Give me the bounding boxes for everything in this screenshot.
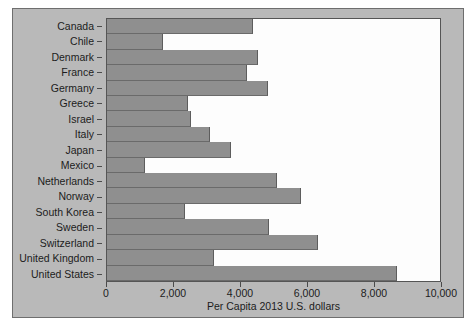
bar	[107, 19, 253, 34]
bar	[107, 204, 185, 219]
y-axis-labels: CanadaChileDenmarkFranceGermanyGreeceIsr…	[13, 18, 102, 282]
y-axis-tick-mark	[97, 166, 102, 167]
category-label: United States	[31, 269, 102, 280]
y-axis-tick-mark	[97, 57, 102, 58]
bar-row	[107, 188, 440, 203]
bar-row	[107, 173, 440, 188]
y-axis-tick-mark	[97, 181, 102, 182]
y-axis-tick-label-canada: Canada	[13, 18, 102, 34]
bar-row	[107, 19, 440, 34]
category-label: France	[61, 67, 102, 78]
bar	[107, 235, 318, 250]
category-label: Canada	[57, 21, 102, 32]
bar-row	[107, 81, 440, 96]
x-axis-tick-label: 10,000	[425, 288, 457, 299]
y-axis-tick-label-mexico: Mexico	[13, 158, 102, 174]
y-axis-tick-mark	[97, 228, 102, 229]
y-axis-tick-label-sweden: Sweden	[13, 220, 102, 236]
bar	[107, 81, 268, 96]
category-label: United Kingdom	[19, 253, 102, 264]
bar	[107, 111, 191, 126]
y-axis-tick-label-united-kingdom: United Kingdom	[13, 251, 102, 267]
y-axis-tick-mark	[97, 197, 102, 198]
bar	[107, 158, 145, 173]
category-label: Denmark	[51, 52, 102, 63]
x-axis-tick-label: 8,000	[361, 288, 387, 299]
bar	[107, 96, 188, 111]
y-axis-tick-label-france: France	[13, 65, 102, 81]
y-axis-tick-label-chile: Chile	[13, 34, 102, 50]
y-axis-tick-label-netherlands: Netherlands	[13, 173, 102, 189]
y-axis-tick-label-switzerland: Switzerland	[13, 235, 102, 251]
bar-row	[107, 266, 440, 281]
bar	[107, 173, 277, 188]
x-axis-title: Per Capita 2013 U.S. dollars	[106, 301, 441, 312]
bar-row	[107, 96, 440, 111]
category-label: South Korea	[36, 207, 102, 218]
bar	[107, 219, 269, 234]
y-axis-tick-label-denmark: Denmark	[13, 49, 102, 65]
category-label: Germany	[51, 83, 102, 94]
bar-row	[107, 34, 440, 49]
y-axis-tick-mark	[97, 119, 102, 120]
bar	[107, 142, 231, 157]
y-axis-tick-mark	[97, 72, 102, 73]
bar-row	[107, 111, 440, 126]
bar-row	[107, 142, 440, 157]
category-label: Norway	[58, 191, 102, 202]
y-axis-tick-mark	[97, 274, 102, 275]
bar	[107, 188, 301, 203]
y-axis-tick-label-united-states: United States	[13, 267, 102, 283]
bar	[107, 250, 214, 265]
y-axis-tick-mark	[97, 41, 102, 42]
category-label: Mexico	[61, 160, 102, 171]
x-axis-tick-label: 0	[103, 288, 109, 299]
bar-row	[107, 50, 440, 65]
plot-area	[106, 18, 441, 282]
category-label: Greece	[60, 98, 102, 109]
x-axis-tick-label: 2,000	[160, 288, 186, 299]
y-axis-tick-mark	[97, 26, 102, 27]
bar-row	[107, 219, 440, 234]
x-axis-tick-label: 6,000	[294, 288, 320, 299]
figure-frame: CanadaChileDenmarkFranceGermanyGreeceIsr…	[12, 8, 464, 318]
y-axis-tick-mark	[97, 243, 102, 244]
y-axis-tick-label-greece: Greece	[13, 96, 102, 112]
bar	[107, 50, 258, 65]
y-axis-tick-label-south-korea: South Korea	[13, 204, 102, 220]
bar-row	[107, 127, 440, 142]
y-axis-tick-mark	[97, 134, 102, 135]
y-axis-tick-mark	[97, 212, 102, 213]
bar-row	[107, 204, 440, 219]
bar	[107, 266, 397, 281]
y-axis-tick-label-israel: Israel	[13, 111, 102, 127]
bar-row	[107, 235, 440, 250]
bar-row	[107, 158, 440, 173]
y-axis-tick-mark	[97, 103, 102, 104]
bar	[107, 127, 210, 142]
y-axis-tick-mark	[97, 259, 102, 260]
y-axis-tick-mark	[97, 88, 102, 89]
category-label: Switzerland	[40, 238, 102, 249]
bar-series	[107, 19, 440, 281]
bar	[107, 65, 247, 80]
bar-row	[107, 65, 440, 80]
y-axis-tick-label-italy: Italy	[13, 127, 102, 143]
y-axis-tick-label-norway: Norway	[13, 189, 102, 205]
y-axis-tick-label-japan: Japan	[13, 142, 102, 158]
y-axis-tick-label-germany: Germany	[13, 80, 102, 96]
category-label: Sweden	[56, 222, 102, 233]
bar	[107, 34, 163, 49]
category-label: Netherlands	[37, 176, 102, 187]
y-axis-tick-mark	[97, 150, 102, 151]
bar-row	[107, 250, 440, 265]
x-axis-tick-label: 4,000	[227, 288, 253, 299]
